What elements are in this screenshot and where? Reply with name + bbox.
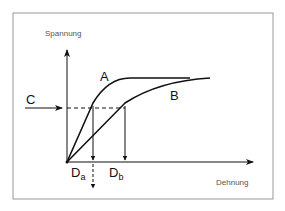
- strain-a-label: Da: [71, 165, 85, 182]
- strain-a-sub: a: [80, 172, 85, 182]
- curve-a-label: A: [100, 69, 109, 84]
- x-axis-label: Dehnung: [216, 178, 248, 187]
- stress-level-label: C: [26, 92, 35, 107]
- diagram-frame: [13, 13, 273, 199]
- strain-b-label: Db: [109, 165, 123, 182]
- strain-b-sub: b: [118, 172, 123, 182]
- origin-point: [66, 161, 69, 164]
- strain-a-main: D: [71, 165, 80, 180]
- curve-b: [67, 78, 210, 162]
- strain-b-main: D: [109, 165, 118, 180]
- stress-strain-diagram: Spannung Dehnung A B C Da Db: [0, 0, 285, 211]
- y-axis-label: Spannung: [45, 29, 81, 38]
- curve-b-label: B: [170, 88, 179, 103]
